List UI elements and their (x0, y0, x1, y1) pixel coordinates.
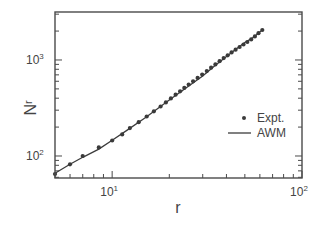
data-point (256, 31, 260, 35)
data-point (226, 53, 230, 57)
data-point (145, 114, 149, 118)
y-axis-title: Nr (22, 100, 39, 116)
data-point (200, 73, 204, 77)
data-point (234, 48, 238, 52)
data-point (178, 89, 182, 93)
data-point (213, 62, 217, 66)
data-point (152, 109, 156, 113)
y-axis-title-sub: r (22, 100, 34, 104)
data-point (209, 66, 213, 70)
x-tick-label: 101 (100, 184, 118, 199)
data-point (222, 56, 226, 60)
data-point (245, 40, 249, 44)
svg-text:Nr: Nr (22, 100, 39, 116)
x-tick-label: 102 (290, 184, 308, 199)
data-point (110, 138, 114, 142)
x-axis-title: r (175, 199, 181, 216)
legend: Expt. AWM (228, 111, 286, 140)
legend-label-expt: Expt. (257, 111, 284, 125)
axis-ticks (55, 14, 302, 178)
data-point (182, 86, 186, 90)
data-point (164, 100, 168, 104)
data-point (169, 96, 173, 100)
data-point (196, 76, 200, 80)
data-point (218, 59, 222, 63)
chart-figure: Nr r 101102102103 Expt. AWM (0, 0, 322, 228)
data-point (68, 162, 72, 166)
data-point (137, 120, 141, 124)
data-point (260, 28, 264, 32)
y-tick-label: 102 (26, 148, 44, 163)
data-point (159, 104, 163, 108)
legend-label-awm: AWM (257, 126, 286, 140)
data-point (187, 82, 191, 86)
experimental-data-points (53, 28, 265, 176)
data-point (81, 154, 85, 158)
data-point (120, 132, 124, 136)
data-point (253, 34, 257, 38)
y-axis-title-main: N (22, 104, 39, 116)
data-point (241, 42, 245, 46)
legend-dot-icon (242, 116, 246, 120)
data-point (97, 145, 101, 149)
data-point (128, 126, 132, 130)
y-tick-label: 103 (26, 52, 44, 67)
data-point (174, 93, 178, 97)
data-point (230, 50, 234, 54)
data-point (249, 37, 253, 41)
data-point (238, 45, 242, 49)
data-point (205, 69, 209, 73)
data-point (191, 79, 195, 83)
